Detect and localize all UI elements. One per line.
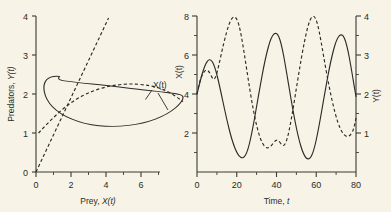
right-right-y-ticklabel-2: 2	[364, 90, 369, 100]
left-panel-phase-portrait: 0 1 2 3 4 0 2 4 6 Prey, X(t) Predators, …	[6, 12, 183, 207]
x-of-t-callout-label: X(t)	[153, 80, 167, 90]
right-panel-right-y-axis-title: Y(t)	[371, 89, 381, 103]
right-x-ticklabel-0: 0	[194, 180, 199, 190]
left-panel-nullcline-dashed	[36, 18, 109, 172]
right-left-y-ticklabel-2: 2	[184, 129, 189, 139]
left-x-ticklabel-4: 4	[103, 180, 108, 190]
predator-prey-figure: 0 1 2 3 4 0 2 4 6 Prey, X(t) Predators, …	[0, 0, 391, 212]
right-panel-x-ticks	[197, 172, 356, 177]
left-panel-y-axis-title: Predators, Y(t)	[6, 66, 16, 121]
left-y-ticklabel-0: 0	[23, 168, 28, 178]
x-of-t-callout-leader-upper	[146, 90, 153, 100]
x-of-t-callout-leader-lower	[158, 93, 168, 110]
right-x-ticklabel-60: 60	[311, 180, 321, 190]
right-panel-time-series: 2 4 6 8 1 2 3 4 0 20 40 60 80 Time, t X(…	[174, 12, 381, 207]
left-y-ticklabel-4: 4	[23, 12, 28, 22]
left-x-ticklabel-2: 2	[68, 180, 73, 190]
right-right-y-ticklabel-3: 3	[364, 51, 369, 61]
right-x-ticklabel-20: 20	[232, 180, 242, 190]
left-x-ticklabel-0: 0	[33, 180, 38, 190]
left-y-ticklabel-2: 2	[23, 90, 28, 100]
left-y-ticklabel-3: 3	[23, 51, 28, 61]
right-panel-left-y-axis-title: X(t)	[174, 65, 184, 79]
right-right-y-ticklabel-1: 1	[364, 129, 369, 139]
left-panel-y-ticks	[32, 16, 36, 172]
right-left-y-ticklabel-4: 4	[184, 90, 189, 100]
left-x-ticklabel-6: 6	[138, 180, 143, 190]
right-panel-x-axis-title: Time, t	[264, 196, 290, 206]
right-left-y-ticklabel-8: 8	[184, 12, 189, 22]
prey-X-timeseries-dashed	[197, 16, 356, 148]
right-x-ticklabel-80: 80	[351, 180, 361, 190]
left-panel-inner-trajectory-dashed	[39, 84, 183, 133]
right-right-y-ticklabel-4: 4	[364, 12, 369, 22]
left-y-ticklabel-1: 1	[23, 129, 28, 139]
right-x-ticklabel-40: 40	[271, 180, 281, 190]
right-left-y-ticklabel-6: 6	[184, 51, 189, 61]
left-panel-x-axis-title: Prey, X(t)	[80, 196, 115, 206]
